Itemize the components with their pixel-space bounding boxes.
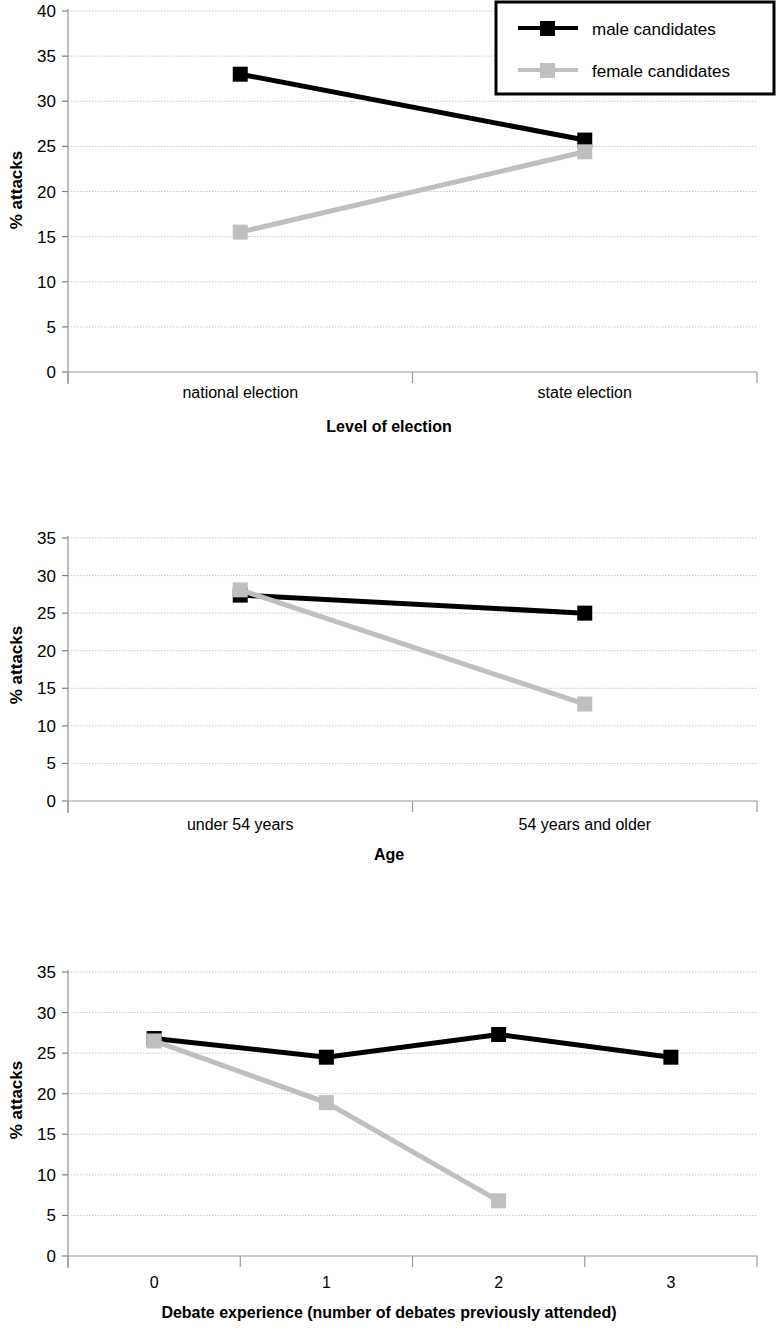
y-tick-label: 15 — [37, 228, 56, 247]
y-tick-label: 35 — [37, 963, 56, 982]
chart-2-gridlines — [68, 538, 757, 801]
data-point-male — [577, 606, 592, 621]
y-tick-label: 40 — [37, 2, 56, 21]
x-category-label: 54 years and older — [518, 816, 651, 833]
x-category-label: state election — [538, 384, 632, 401]
chart-1-legend: male candidates female candidates — [496, 2, 774, 94]
y-tick-label: 25 — [37, 1044, 56, 1063]
y-tick-label: 10 — [37, 273, 56, 292]
legend-label-female: female candidates — [592, 62, 730, 81]
data-point-female — [233, 225, 248, 240]
x-category-label: under 54 years — [187, 816, 294, 833]
y-tick-label: 30 — [37, 92, 56, 111]
data-point-female — [577, 144, 592, 159]
y-tick-label: 5 — [47, 1206, 56, 1225]
y-tick-label: 5 — [47, 754, 56, 773]
data-point-female — [577, 697, 592, 712]
y-tick-label: 15 — [37, 1125, 56, 1144]
series-line-female — [240, 590, 585, 704]
chart-2-axes — [62, 536, 757, 813]
y-tick-label: 35 — [37, 47, 56, 66]
chart-3-category-labels: 0123 — [150, 1274, 676, 1291]
chart-3-y-tick-labels: 05101520253035 — [37, 963, 56, 1266]
y-tick-label: 0 — [47, 1247, 56, 1266]
y-tick-label: 5 — [47, 318, 56, 337]
series-line-male — [240, 595, 585, 613]
y-tick-label: 20 — [37, 183, 56, 202]
chart-3-x-axis-title: Debate experience (number of debates pre… — [161, 1304, 616, 1321]
y-tick-label: 20 — [37, 642, 56, 661]
chart-level-of-election: 0510152025303540 national electionstate … — [0, 0, 778, 455]
x-category-label: 3 — [666, 1274, 675, 1291]
chart-1-y-axis-title: % attacks — [7, 151, 26, 229]
chart-age: 05101520253035 under 54 years54 years an… — [0, 500, 778, 900]
chart-1-canvas: 0510152025303540 national electionstate … — [0, 0, 778, 455]
chart-3-canvas: 05101520253035 0123 Debate experience (n… — [0, 940, 778, 1337]
legend-label-male: male candidates — [592, 20, 716, 39]
chart-3-y-axis-title: % attacks — [7, 1061, 26, 1139]
chart-1-category-labels: national electionstate election — [182, 384, 631, 401]
y-tick-label: 10 — [37, 1166, 56, 1185]
data-point-male — [663, 1050, 678, 1065]
data-point-male — [491, 1027, 506, 1042]
chart-2-canvas: 05101520253035 under 54 years54 years an… — [0, 500, 778, 900]
y-tick-label: 25 — [37, 137, 56, 156]
data-point-female — [147, 1033, 162, 1048]
y-tick-label: 30 — [37, 1004, 56, 1023]
y-tick-label: 30 — [37, 567, 56, 586]
chart-debate-experience: 05101520253035 0123 Debate experience (n… — [0, 940, 778, 1337]
data-point-male — [319, 1050, 334, 1065]
chart-2-category-labels: under 54 years54 years and older — [187, 816, 652, 833]
legend-swatch-marker-female — [540, 63, 555, 78]
chart-2-y-tick-labels: 05101520253035 — [37, 529, 56, 811]
figure-page: 0510152025303540 national electionstate … — [0, 0, 778, 1337]
chart-2-y-axis-title: % attacks — [7, 626, 26, 704]
chart-3-series — [147, 1027, 679, 1208]
data-point-male — [233, 67, 248, 82]
series-line-female — [154, 1041, 499, 1201]
y-tick-label: 15 — [37, 679, 56, 698]
y-tick-label: 25 — [37, 604, 56, 623]
chart-3-axes — [62, 970, 757, 1268]
chart-3-gridlines — [68, 972, 757, 1256]
y-tick-label: 20 — [37, 1085, 56, 1104]
chart-1-y-tick-labels: 0510152025303540 — [37, 2, 56, 382]
data-point-female — [491, 1193, 506, 1208]
y-tick-label: 0 — [47, 792, 56, 811]
chart-2-x-axis-title: Age — [374, 846, 404, 863]
x-category-label: 0 — [150, 1274, 159, 1291]
x-category-label: 2 — [494, 1274, 503, 1291]
y-tick-label: 35 — [37, 529, 56, 548]
chart-2-series — [233, 582, 593, 711]
x-category-label: national election — [182, 384, 298, 401]
data-point-female — [319, 1095, 334, 1110]
chart-1-x-axis-title: Level of election — [326, 418, 451, 435]
data-point-female — [233, 582, 248, 597]
x-category-label: 1 — [322, 1274, 331, 1291]
series-line-male — [154, 1034, 671, 1057]
legend-swatch-marker-male — [540, 21, 555, 36]
y-tick-label: 10 — [37, 717, 56, 736]
y-tick-label: 0 — [47, 363, 56, 382]
